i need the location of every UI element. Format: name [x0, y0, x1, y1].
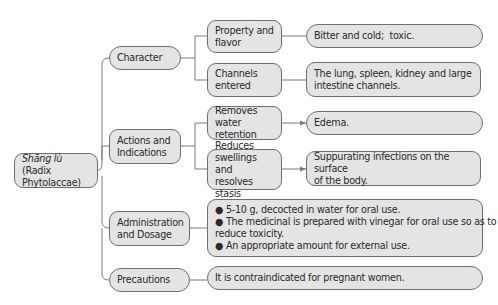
- bullet-item: ● An appropriate amount for external use…: [215, 240, 410, 252]
- bullet-item: reduce toxicity.: [215, 228, 284, 240]
- node-label: Channels: [215, 68, 257, 80]
- node-property-flavor: Property and flavor: [207, 20, 282, 53]
- value-text: Suppurating infections on the surface: [314, 151, 473, 175]
- category-label: Administration: [117, 217, 184, 229]
- value-text: intestine channels.: [314, 80, 400, 92]
- category-label: and Dosage: [117, 229, 172, 241]
- node-removes-water: Removes water retention: [207, 106, 282, 140]
- category-actions: Actions and Indications: [109, 129, 181, 164]
- value-text: Bitter and cold; toxic.: [314, 30, 414, 42]
- node-label: swellings and: [215, 152, 274, 176]
- node-label: Property and: [215, 25, 274, 37]
- node-reduces-swellings: Reduces swellings and resolves stasis: [207, 149, 282, 190]
- node-label: entered: [215, 80, 251, 92]
- value-property-flavor: Bitter and cold; toxic.: [306, 24, 483, 48]
- root-line2: Phytolaccae): [22, 177, 81, 189]
- category-label: Character: [117, 52, 162, 64]
- value-channels-entered: The lung, spleen, kidney and large intes…: [306, 62, 481, 97]
- value-text: The lung, spleen, kidney and large: [314, 68, 472, 80]
- category-label: Indications: [117, 147, 166, 159]
- category-label: Precautions: [117, 274, 170, 286]
- value-edema: Edema.: [306, 111, 483, 135]
- category-character: Character: [109, 46, 181, 70]
- value-suppurating: Suppurating infections on the surface of…: [306, 151, 481, 186]
- value-precautions: It is contraindicated for pregnant women…: [207, 266, 483, 290]
- node-channels-entered: Channels entered: [207, 63, 282, 97]
- category-label: Actions and: [117, 135, 170, 147]
- root-node: Shāng lù (Radix Phytolaccae): [14, 153, 98, 188]
- node-label: Removes water: [215, 105, 274, 129]
- node-label: Reduces: [215, 140, 254, 152]
- node-label: flavor: [215, 37, 241, 49]
- category-administration: Administration and Dosage: [109, 211, 190, 246]
- root-rest: (Radix: [22, 165, 51, 176]
- bullet-item: ● 5-10 g, decocted in water for oral use…: [215, 204, 400, 216]
- root-italic: Shāng lù: [22, 153, 62, 164]
- value-text: It is contraindicated for pregnant women…: [215, 272, 404, 284]
- bullet-item: ● The medicinal is prepared with vinegar…: [215, 216, 496, 228]
- node-label: resolves stasis: [215, 176, 274, 200]
- value-administration: ● 5-10 g, decocted in water for oral use…: [207, 199, 483, 257]
- category-precautions: Precautions: [109, 268, 190, 292]
- value-text: of the body.: [314, 175, 368, 187]
- value-text: Edema.: [314, 117, 349, 129]
